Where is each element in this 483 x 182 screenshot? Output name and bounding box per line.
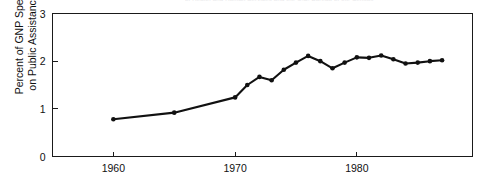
series-markers: [111, 53, 444, 121]
y-tick-label: 0: [40, 151, 46, 163]
x-tick-label: 1960: [102, 162, 126, 174]
data-point: [233, 95, 238, 100]
data-point: [415, 60, 420, 65]
data-point: [282, 67, 287, 72]
data-point: [403, 61, 408, 66]
figure-container: of Health and Human Services and the U.S…: [0, 0, 483, 182]
data-point: [440, 58, 445, 63]
data-point: [306, 54, 311, 59]
series-line: [113, 55, 442, 119]
data-point: [257, 75, 262, 80]
data-point: [245, 83, 250, 88]
data-point: [318, 59, 323, 64]
data-point: [342, 60, 347, 65]
plot-frame: [53, 14, 473, 157]
data-point: [379, 53, 384, 58]
data-series: [111, 53, 444, 121]
x-axis-ticks: 196019701980: [102, 152, 369, 174]
data-point: [428, 59, 433, 64]
data-point: [367, 56, 372, 61]
data-point: [269, 78, 274, 83]
data-point: [355, 55, 360, 60]
data-point: [330, 66, 335, 71]
x-tick-label: 1980: [345, 162, 369, 174]
line-chart: 0123 196019701980: [0, 0, 483, 182]
data-point: [111, 117, 116, 122]
y-axis-ticks: 0123: [40, 8, 58, 163]
axis-lines: [53, 14, 473, 157]
data-point: [294, 60, 299, 65]
x-tick-label: 1970: [223, 162, 247, 174]
y-axis-label: Percent of GNP Spent on Public Assistanc…: [13, 0, 38, 108]
data-point: [172, 110, 177, 115]
y-tick-label: 1: [40, 103, 46, 115]
data-point: [391, 57, 396, 62]
y-tick-label: 2: [40, 55, 46, 67]
y-tick-label: 3: [40, 8, 46, 20]
